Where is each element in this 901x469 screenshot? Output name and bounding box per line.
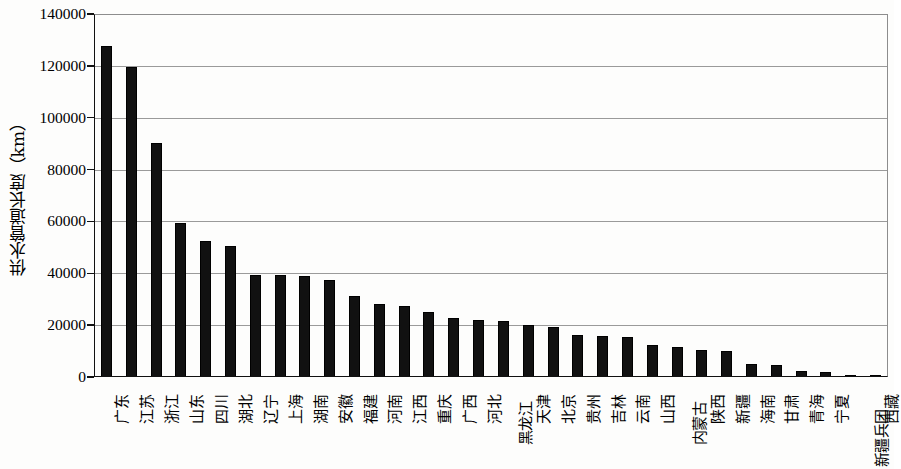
y-axis-tick-label: 60000 xyxy=(47,212,86,230)
x-axis-tick-label-text: 北京 xyxy=(557,395,578,424)
x-axis-tick-label-text: 浙江 xyxy=(160,395,181,424)
y-axis-title-text: 供水管道长度（km） xyxy=(5,114,30,276)
y-axis-tick-label: 100000 xyxy=(40,109,87,127)
x-axis-tick-label-text: 辽宁 xyxy=(259,395,280,424)
x-axis-tick-label-text: 甘肃 xyxy=(780,395,801,424)
x-axis-tick-label-text: 湖南 xyxy=(309,395,330,424)
x-axis-tick-label-text: 广西 xyxy=(458,395,479,424)
x-axis-tick-label: 云南 xyxy=(631,395,652,424)
y-axis-tick-label: 40000 xyxy=(47,264,86,282)
x-axis-tick-label-text: 广东 xyxy=(110,395,131,424)
y-axis-tick-label: 0 xyxy=(78,368,86,386)
x-axis-tick-label-text: 四川 xyxy=(210,395,231,424)
y-axis-tick-mark xyxy=(87,221,94,222)
y-axis-tick-label: 20000 xyxy=(47,316,86,334)
y-axis-tick-label: 120000 xyxy=(40,57,87,75)
x-axis-tick-label: 四川 xyxy=(210,395,231,424)
x-axis-tick-labels: 广东江苏浙江山东四川湖北辽宁上海湖南安徽福建河南江西重庆广西河北黑龙江天津北京贵… xyxy=(94,380,888,469)
x-axis-tick-label: 上海 xyxy=(284,395,305,424)
x-axis-tick-label-text: 西藏 xyxy=(880,395,901,424)
x-axis-tick-label: 湖南 xyxy=(309,395,330,424)
x-axis-tick-label: 江苏 xyxy=(135,395,156,424)
x-axis-tick-label-text: 重庆 xyxy=(433,395,454,424)
x-axis-tick-label: 重庆 xyxy=(433,395,454,424)
x-axis-tick-label-text: 天津 xyxy=(532,395,553,424)
x-axis-tick-label: 广西 xyxy=(458,395,479,424)
x-axis-tick-label-text: 山西 xyxy=(656,395,677,424)
x-axis-tick-label-text: 江苏 xyxy=(135,395,156,424)
plot-frame xyxy=(94,14,888,377)
x-axis-tick-label-text: 云南 xyxy=(631,395,652,424)
x-axis-tick-label-text: 河北 xyxy=(483,395,504,424)
y-axis-tick-mark xyxy=(87,273,94,274)
y-axis-tick-label: 80000 xyxy=(47,161,86,179)
x-axis-tick-label: 安徽 xyxy=(334,395,355,424)
x-axis-tick-label-text: 青海 xyxy=(805,395,826,424)
y-axis-tick-label: 140000 xyxy=(40,5,87,23)
x-axis-tick-label-text: 海南 xyxy=(756,395,777,424)
x-axis-tick-label: 山东 xyxy=(185,395,206,424)
x-axis-tick-label: 河南 xyxy=(383,395,404,424)
y-axis-tick-mark xyxy=(87,117,94,118)
x-axis-tick-label: 浙江 xyxy=(160,395,181,424)
x-axis-tick-label: 宁夏 xyxy=(830,395,851,424)
x-axis-tick-label: 辽宁 xyxy=(259,395,280,424)
x-axis-tick-label-text: 陕西 xyxy=(706,395,727,424)
x-axis-tick-label-text: 新疆 xyxy=(731,395,752,424)
y-axis-title: 供水管道长度（km） xyxy=(2,0,32,390)
y-axis-tick-mark xyxy=(87,324,94,325)
x-axis-tick-label: 江西 xyxy=(408,395,429,424)
x-axis-tick-label-text: 湖北 xyxy=(234,395,255,424)
x-axis-tick-label: 甘肃 xyxy=(780,395,801,424)
x-axis-tick-label-text: 上海 xyxy=(284,395,305,424)
x-axis-tick-label: 北京 xyxy=(557,395,578,424)
x-axis-tick-label-text: 贵州 xyxy=(582,395,603,424)
x-axis-tick-label: 河北 xyxy=(483,395,504,424)
x-axis-tick-label: 贵州 xyxy=(582,395,603,424)
x-axis-tick-label: 新疆 xyxy=(731,395,752,424)
x-axis-tick-label-text: 江西 xyxy=(408,395,429,424)
x-axis-tick-label-text: 安徽 xyxy=(334,395,355,424)
x-axis-tick-label: 湖北 xyxy=(234,395,255,424)
y-axis-tick-labels: 020000400006000080000100000120000140000 xyxy=(30,0,90,400)
x-axis-tick-label: 陕西 xyxy=(706,395,727,424)
x-axis-tick-label-text: 河南 xyxy=(383,395,404,424)
plot-area xyxy=(94,14,888,377)
x-axis-tick-label-text: 吉林 xyxy=(607,395,628,424)
x-axis-tick-label: 福建 xyxy=(359,395,380,424)
y-axis-tick-mark xyxy=(87,169,94,170)
y-axis-tick-mark xyxy=(87,376,94,377)
x-axis-tick-label: 山西 xyxy=(656,395,677,424)
y-axis-tick-mark xyxy=(87,13,94,14)
x-axis-tick-label: 海南 xyxy=(756,395,777,424)
x-axis-tick-label: 西藏 xyxy=(880,395,901,424)
x-axis-tick-label: 广东 xyxy=(110,395,131,424)
x-axis-tick-label: 青海 xyxy=(805,395,826,424)
x-axis-tick-label: 吉林 xyxy=(607,395,628,424)
x-axis-tick-label-text: 山东 xyxy=(185,395,206,424)
x-axis-tick-label-text: 福建 xyxy=(359,395,380,424)
x-axis-tick-label: 天津 xyxy=(532,395,553,424)
x-axis-tick-label-text: 宁夏 xyxy=(830,395,851,424)
y-axis-tick-mark xyxy=(87,65,94,66)
